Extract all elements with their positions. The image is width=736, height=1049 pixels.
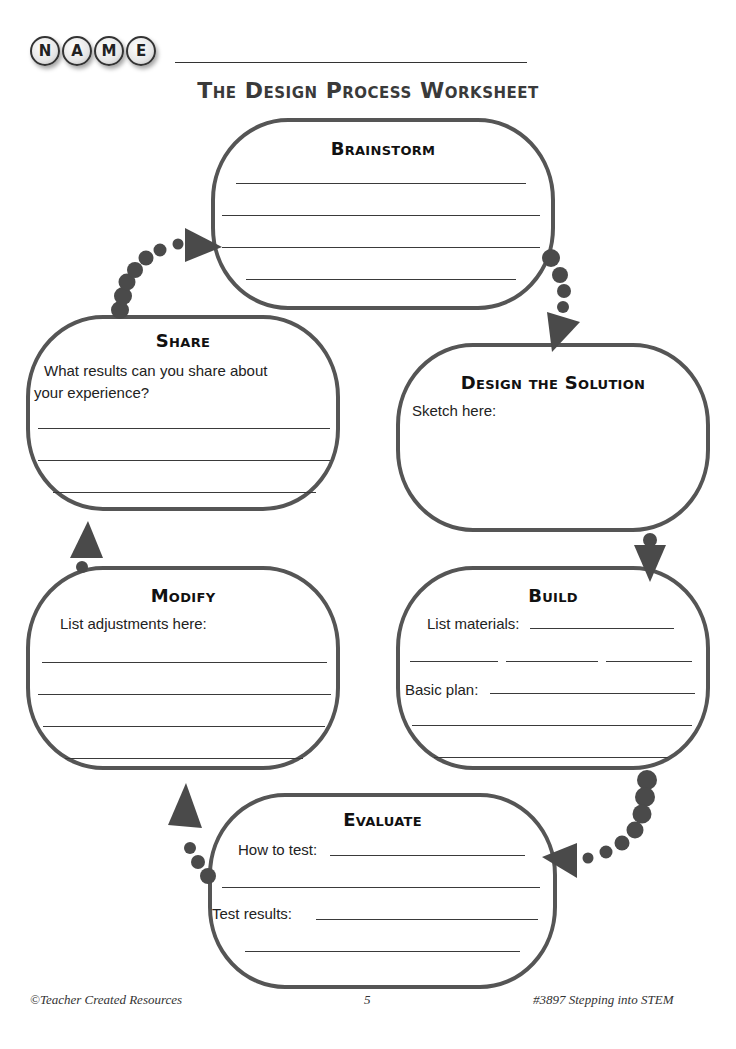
evaluate-results-line-2[interactable]	[245, 951, 520, 952]
evaluate-how-label: How to test:	[238, 841, 317, 858]
build-materials-line-4[interactable]	[606, 661, 692, 662]
share-line-2[interactable]	[38, 460, 330, 461]
share-prompt-line-1: What results can you share about	[44, 362, 267, 379]
footer-copyright: ©Teacher Created Resources	[30, 992, 182, 1008]
arrow-evaluate-to-modify-icon	[168, 783, 216, 884]
sketch-area[interactable]	[412, 425, 692, 505]
evaluate-results-line-1[interactable]	[316, 919, 538, 920]
build-plan-line-2[interactable]	[412, 725, 692, 726]
modify-line-2[interactable]	[38, 694, 331, 695]
build-heading: Build	[398, 585, 708, 606]
share-heading: Share	[28, 330, 338, 351]
brainstorm-line-2[interactable]	[222, 215, 540, 216]
modify-line-3[interactable]	[43, 726, 325, 727]
brainstorm-line-4[interactable]	[246, 279, 516, 280]
arrow-brainstorm-to-design-icon	[542, 249, 580, 352]
footer-page-number: 5	[364, 992, 371, 1008]
build-materials-line-3[interactable]	[506, 661, 598, 662]
build-materials-line-1[interactable]	[530, 628, 674, 629]
evaluate-how-line-1[interactable]	[330, 855, 525, 856]
arrow-share-to-brainstorm-icon	[111, 228, 222, 319]
brainstorm-line-3[interactable]	[222, 247, 540, 248]
modify-heading: Modify	[28, 585, 338, 606]
brainstorm-heading: Brainstorm	[213, 138, 553, 159]
arrow-build-to-evaluate-icon	[542, 770, 657, 878]
share-line-1[interactable]	[38, 428, 330, 429]
modify-prompt: List adjustments here:	[60, 615, 207, 632]
modify-line-1[interactable]	[42, 662, 327, 663]
build-plan-label: Basic plan:	[405, 681, 478, 698]
footer-book-title: #3897 Stepping into STEM	[533, 992, 673, 1008]
build-plan-line-1[interactable]	[490, 693, 695, 694]
design-heading: Design the Solution	[398, 372, 708, 393]
brainstorm-line-1[interactable]	[236, 183, 526, 184]
arrow-modify-to-share-icon	[70, 521, 103, 573]
evaluate-how-line-2[interactable]	[222, 887, 540, 888]
build-plan-line-3[interactable]	[434, 757, 668, 758]
share-prompt-line-2: your experience?	[34, 384, 149, 401]
build-materials-line-2[interactable]	[410, 661, 498, 662]
modify-line-4[interactable]	[65, 758, 303, 759]
evaluate-results-label: Test results:	[212, 905, 292, 922]
share-line-3[interactable]	[53, 492, 316, 493]
build-materials-label: List materials:	[427, 615, 520, 632]
evaluate-heading: Evaluate	[210, 809, 555, 830]
design-prompt: Sketch here:	[412, 402, 496, 419]
